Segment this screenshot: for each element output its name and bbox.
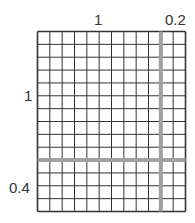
top-label-width: 1 [94, 12, 102, 27]
left-label-height: 1 [24, 88, 32, 103]
top-label-highlight-segment: 0.2 [165, 12, 186, 27]
left-label-highlight-segment: 0.4 [9, 180, 30, 195]
